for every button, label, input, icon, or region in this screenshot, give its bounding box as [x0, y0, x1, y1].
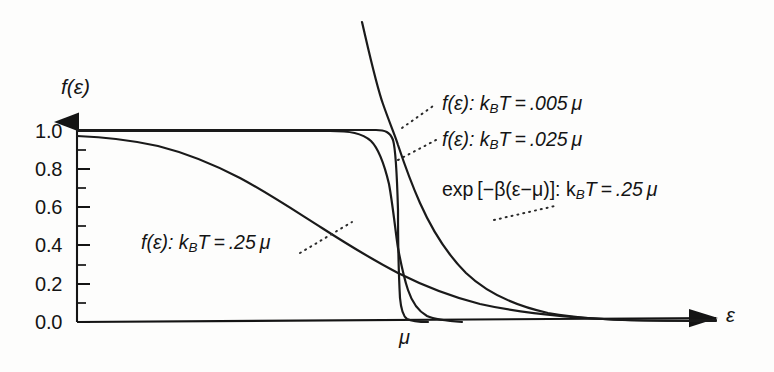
x-tick-label-mu: μ — [399, 327, 410, 347]
y-tick-label-1.0: 1.0 — [14, 121, 62, 141]
y-axis-title: f(ε) — [61, 76, 90, 97]
y-tick-label-0.0: 0.0 — [14, 312, 62, 332]
annotation-3-subscript: B — [576, 187, 585, 202]
curve-fermi-0005 — [77, 130, 428, 322]
annotation-4-tail: T = .25 μ — [198, 231, 271, 253]
y-tick-label-0.4: 0.4 — [14, 235, 62, 255]
annotation-label-exp-boltzmann: exp [−β(ε−μ)]: kBT = .25 μ — [442, 180, 658, 202]
annotation-3-tail: T = .25 μ — [585, 178, 658, 200]
leader-line-label-3 — [494, 206, 555, 220]
annotation-3-head: exp [−β(ε−μ)]: k — [442, 178, 576, 200]
figure-root: 1.0 0.8 0.6 0.4 0.2 0.0 f(ε) ε μ f(ε): k… — [0, 0, 774, 372]
annotation-2-tail: T = .025 μ — [499, 128, 583, 150]
annotation-label-fermi-0025: f(ε): kBT = .025 μ — [442, 130, 582, 152]
leader-line-label-1 — [402, 104, 436, 128]
x-axis-title: ε — [726, 305, 735, 325]
annotation-1-tail: T = .005 μ — [499, 92, 583, 114]
y-tick-label-0.6: 0.6 — [14, 197, 62, 217]
annotation-label-fermi-025: f(ε): kBT = .25 μ — [141, 233, 270, 255]
annotation-1-head: f(ε): k — [442, 92, 490, 114]
annotation-2-subscript: B — [490, 137, 499, 152]
curve-exp-boltzmann-025 — [362, 22, 716, 321]
annotation-4-subscript: B — [189, 240, 198, 255]
leader-line-label-2 — [398, 140, 436, 160]
annotation-1-subscript: B — [490, 101, 499, 116]
y-tick-label-0.2: 0.2 — [14, 274, 62, 294]
annotation-label-fermi-0005: f(ε): kBT = .005 μ — [442, 94, 582, 116]
y-tick-label-0.8: 0.8 — [14, 159, 62, 179]
annotation-4-head: f(ε): k — [141, 231, 189, 253]
y-axis-minor-ticks — [77, 150, 86, 303]
leader-line-label-4 — [300, 222, 352, 253]
curve-fermi-0025 — [77, 131, 462, 322]
annotation-2-head: f(ε): k — [442, 128, 490, 150]
